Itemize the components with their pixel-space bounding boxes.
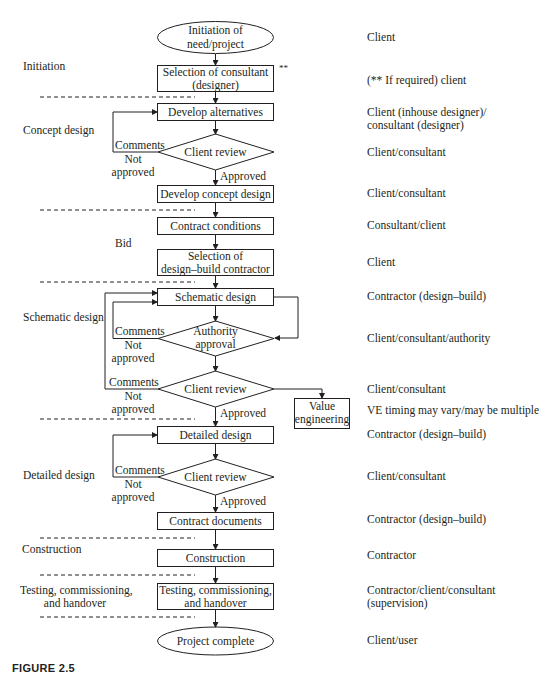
- resp-contract-conditions: Consultant/client: [367, 219, 446, 232]
- resp-develop-alternatives-line1: Client (inhouse designer)/: [367, 106, 486, 119]
- client-review-1-label: Client review: [157, 145, 274, 159]
- develop-concept-label: Develop concept design: [157, 186, 274, 203]
- resp-develop-alternatives-line2: consultant (designer): [367, 119, 464, 132]
- not-label-3: Not: [113, 390, 153, 403]
- selection-consultant-label-line1: Selection of consultant: [157, 66, 274, 79]
- if-required-marker: **: [279, 62, 288, 75]
- resp-client-review-3: Client/consultant: [367, 470, 446, 483]
- comments-label-3: Comments: [109, 376, 159, 389]
- comments-label-2: Comments: [115, 325, 165, 338]
- start-label-line1: Initiation of: [157, 24, 274, 37]
- approved-lc-label-2: approved: [110, 352, 156, 365]
- resp-start: Client: [367, 31, 395, 44]
- selection-db-label-line2: design–build contractor: [157, 263, 274, 276]
- resp-testing-line1: Contractor/client/consultant: [367, 584, 495, 597]
- resp-develop-concept: Client/consultant: [367, 187, 446, 200]
- phase-concept-design: Concept design: [23, 124, 94, 137]
- client-review-3-label: Client review: [157, 470, 274, 484]
- resp-value-engineering: VE timing may vary/may be multiple: [367, 404, 539, 417]
- not-label-4: Not: [113, 478, 153, 491]
- resp-contract-documents: Contractor (design–build): [367, 513, 486, 526]
- not-label-2: Not: [113, 339, 153, 352]
- phase-construction: Construction: [22, 543, 81, 556]
- detailed-design-label: Detailed design: [157, 427, 274, 444]
- value-engineering-label-line2: engineering: [294, 413, 350, 426]
- not-label-1: Not: [113, 153, 153, 166]
- authority-label-line2: approval: [157, 338, 274, 351]
- authority-label-line1: Authority: [157, 325, 274, 338]
- approved-lc-label-3: approved: [110, 403, 156, 416]
- phase-schematic-design: Schematic design: [23, 311, 104, 324]
- approved-label-2: Approved: [220, 407, 266, 420]
- approved-lc-label-1: approved: [110, 166, 156, 179]
- testing-label-line2: and handover: [157, 597, 274, 610]
- selection-db-label-line1: Selection of: [157, 250, 274, 263]
- start-label-line2: need/project: [157, 38, 274, 51]
- approved-label-3: Approved: [220, 495, 266, 508]
- phase-detailed-design: Detailed design: [23, 469, 95, 482]
- resp-testing-line2: (supervision): [367, 597, 428, 610]
- contract-documents-label: Contract documents: [157, 513, 274, 530]
- resp-selection-db: Client: [367, 256, 395, 269]
- comments-label-4: Comments: [115, 464, 165, 477]
- contract-conditions-label: Contract conditions: [157, 218, 274, 235]
- client-review-2-label: Client review: [157, 382, 274, 396]
- figure-caption: FIGURE 2.5: [12, 662, 75, 674]
- resp-schematic-design: Contractor (design–build): [367, 290, 486, 303]
- develop-alternatives-label: Develop alternatives: [157, 104, 274, 121]
- phase-testing-line2: and handover: [20, 597, 130, 610]
- schematic-design-label: Schematic design: [157, 289, 274, 306]
- resp-construction: Contractor: [367, 549, 416, 562]
- end-label: Project complete: [157, 634, 274, 648]
- construction-label: Construction: [157, 550, 274, 567]
- resp-authority: Client/consultant/authority: [367, 332, 490, 345]
- resp-client-review-2: Client/consultant: [367, 383, 446, 396]
- value-engineering-label-line1: Value: [294, 400, 350, 413]
- selection-consultant-label-line2: (designer): [157, 79, 274, 92]
- approved-lc-label-4: approved: [110, 491, 156, 504]
- phase-initiation: Initiation: [23, 60, 65, 73]
- phase-bid: Bid: [115, 237, 132, 250]
- approved-label-1: Approved: [220, 170, 266, 183]
- testing-label-line1: Testing, commissioning,: [157, 584, 274, 597]
- resp-end: Client/user: [367, 634, 417, 647]
- resp-selection-consultant: (** If required) client: [367, 74, 466, 87]
- resp-client-review-1: Client/consultant: [367, 146, 446, 159]
- resp-detailed-design: Contractor (design–build): [367, 428, 486, 441]
- comments-label-1: Comments: [115, 139, 165, 152]
- phase-testing-line1: Testing, commissioning,: [20, 584, 130, 597]
